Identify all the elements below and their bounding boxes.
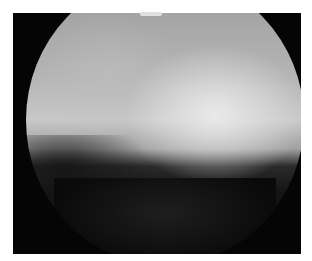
image-frame bbox=[13, 13, 301, 254]
scope-field-of-view bbox=[26, 13, 301, 254]
top-edge-artifact bbox=[140, 12, 162, 16]
lower-dark-region bbox=[54, 178, 276, 254]
